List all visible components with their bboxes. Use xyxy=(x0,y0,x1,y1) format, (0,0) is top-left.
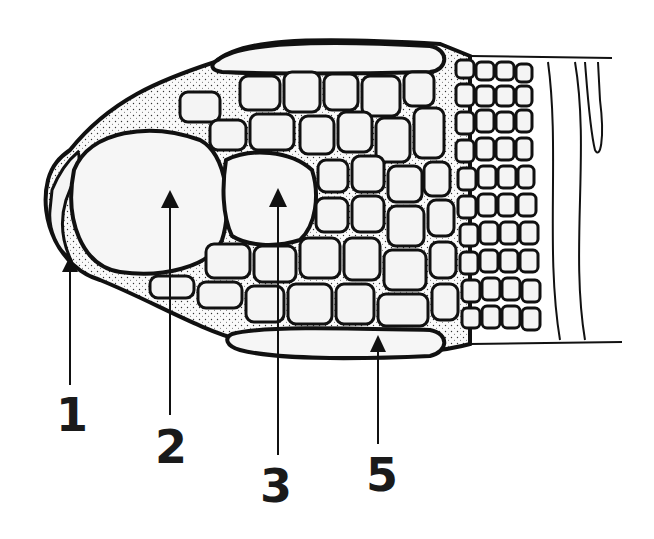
diagram-canvas: 1 2 3 5 xyxy=(0,0,654,539)
head-illustration xyxy=(0,0,654,539)
label-1: 1 xyxy=(56,392,88,438)
large-scale-3 xyxy=(224,153,316,245)
large-scale-2 xyxy=(71,131,227,274)
label-3: 3 xyxy=(260,463,292,509)
infralabial-scale-5 xyxy=(227,328,444,358)
pointer-5 xyxy=(370,335,386,444)
pointer-1 xyxy=(62,256,78,385)
supraocular-scale xyxy=(212,43,444,74)
label-5: 5 xyxy=(366,452,398,498)
granular-scales xyxy=(456,60,540,330)
label-2: 2 xyxy=(155,424,187,470)
